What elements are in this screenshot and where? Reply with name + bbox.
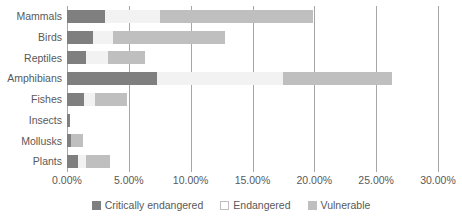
bar-segment[interactable] [67, 31, 93, 44]
bar-segment[interactable] [67, 10, 105, 23]
stacked-bar[interactable] [67, 72, 438, 85]
category-label: Plants [33, 151, 62, 172]
stacked-bar-chart: MammalsBirdsReptilesAmphibiansFishesInse… [0, 0, 462, 222]
stacked-bar[interactable] [67, 93, 438, 106]
category-label: Amphibians [7, 68, 62, 89]
category-label: Insects [29, 110, 62, 131]
bar-segment[interactable] [78, 155, 86, 168]
bar-row [67, 48, 438, 69]
bar-row [67, 110, 438, 131]
bar-segment[interactable] [95, 93, 127, 106]
vulnerable-swatch [308, 201, 317, 210]
category-label: Mollusks [21, 131, 62, 152]
gridline-3000 [438, 6, 439, 172]
critically-endangered-swatch [92, 201, 101, 210]
bar-row [67, 6, 438, 27]
bar-segment[interactable] [67, 51, 86, 64]
bar-segment[interactable] [160, 10, 313, 23]
bar-segment[interactable] [113, 31, 226, 44]
x-tick-label: 25.00% [358, 174, 394, 186]
bar-segment[interactable] [67, 93, 84, 106]
bar-segment[interactable] [67, 114, 70, 127]
legend-item[interactable]: Vulnerable [308, 199, 371, 211]
bar-segment[interactable] [67, 72, 157, 85]
category-label: Reptiles [24, 48, 62, 69]
stacked-bar[interactable] [67, 134, 438, 147]
bar-segment[interactable] [71, 134, 83, 147]
category-label: Mammals [16, 6, 62, 27]
plot-area [67, 6, 438, 172]
legend-item[interactable]: Critically endangered [92, 199, 204, 211]
bar-segment[interactable] [283, 72, 392, 85]
legend-item[interactable]: Endangered [220, 199, 290, 211]
stacked-bar[interactable] [67, 10, 438, 23]
x-tick-label: 30.00% [420, 174, 456, 186]
stacked-bar[interactable] [67, 114, 438, 127]
x-axis-tick-labels: 0.00%5.00%10.00%15.00%20.00%25.00%30.00% [0, 174, 462, 190]
legend-label: Critically endangered [105, 199, 204, 211]
stacked-bar[interactable] [67, 51, 438, 64]
bar-segment[interactable] [86, 155, 110, 168]
x-tick-label: 5.00% [114, 174, 144, 186]
category-label: Birds [38, 27, 62, 48]
bar-segment[interactable] [105, 10, 159, 23]
category-label: Fishes [31, 89, 62, 110]
x-tick-label: 0.00% [52, 174, 82, 186]
bar-row [67, 151, 438, 172]
bar-segment[interactable] [86, 51, 108, 64]
bar-row [67, 68, 438, 89]
endangered-swatch [220, 201, 229, 210]
bar-segment[interactable] [108, 51, 145, 64]
bar-segment[interactable] [84, 93, 95, 106]
x-tick-label: 15.00% [235, 174, 271, 186]
legend-label: Endangered [233, 199, 290, 211]
x-tick-label: 10.00% [173, 174, 209, 186]
stacked-bar[interactable] [67, 155, 438, 168]
chart-legend: Critically endangeredEndangeredVulnerabl… [0, 196, 462, 214]
bar-row [67, 131, 438, 152]
y-axis-category-labels: MammalsBirdsReptilesAmphibiansFishesInse… [0, 6, 62, 172]
bar-row [67, 89, 438, 110]
bar-segment[interactable] [93, 31, 113, 44]
x-tick-label: 20.00% [297, 174, 333, 186]
legend-label: Vulnerable [321, 199, 371, 211]
bar-rows [67, 6, 438, 172]
stacked-bar[interactable] [67, 31, 438, 44]
bar-segment[interactable] [67, 155, 78, 168]
bar-row [67, 27, 438, 48]
bar-segment[interactable] [157, 72, 283, 85]
